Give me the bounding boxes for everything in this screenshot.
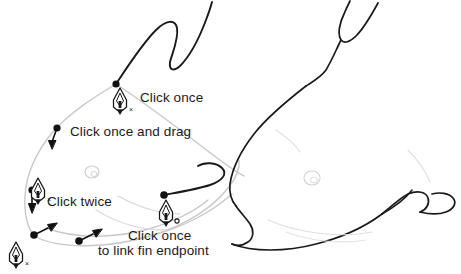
anchor-dorsal-start — [112, 80, 119, 87]
tutorial-canvas: × × × Click once Click once and — [0, 0, 461, 274]
callout-click-once-link-line2: to link fin endpoint — [98, 243, 209, 259]
callout-click-once: Click once — [140, 90, 203, 105]
handle-link-target — [79, 229, 102, 241]
callout-click-twice: Click twice — [47, 194, 112, 209]
drawn-dorsal-fin-path[interactable] — [116, 2, 212, 84]
finished-dolphin-outline — [230, 1, 455, 250]
handle-tail-junction — [34, 223, 57, 235]
anchor-snout-drag — [53, 124, 60, 131]
template-dolphin-outline — [25, 84, 244, 246]
direction-handle-group[interactable] — [28, 128, 102, 241]
anchor-link-target — [75, 237, 83, 245]
drawn-pectoral-fin-path[interactable] — [164, 163, 224, 195]
anchor-tail-junction — [30, 231, 38, 239]
anchor-fin-end — [160, 191, 168, 199]
callout-click-once-link-line1: Click once — [128, 228, 191, 244]
anchor-belly-double — [28, 186, 35, 193]
callout-click-once-and-drag: Click once and drag — [70, 124, 191, 139]
